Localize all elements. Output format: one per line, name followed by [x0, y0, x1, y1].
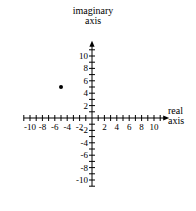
x-tick-label: 8 — [139, 123, 144, 132]
data-points-group — [59, 85, 63, 89]
y-tick-label: -10 — [70, 176, 88, 185]
x-tick-label: -10 — [24, 123, 36, 132]
x-tick-label: -6 — [51, 123, 59, 132]
complex-plane-figure: imaginary axis real axis -10-8-6-4-22468… — [0, 0, 196, 211]
x-tick-label: -8 — [39, 123, 47, 132]
y-tick-label: -2 — [70, 126, 88, 135]
x-tick-label: 6 — [127, 123, 132, 132]
plot-area — [0, 0, 196, 211]
axes-group — [24, 41, 169, 186]
x-tick-label: 4 — [115, 123, 120, 132]
y-tick-label: 4 — [70, 89, 88, 98]
x-tick-label: 2 — [102, 123, 107, 132]
y-tick-label: 10 — [70, 52, 88, 61]
imaginary-axis-arrow — [89, 41, 94, 47]
y-tick-label: 2 — [70, 101, 88, 110]
y-tick-label: -6 — [70, 151, 88, 160]
y-tick-label: -8 — [70, 163, 88, 172]
y-tick-label: 8 — [70, 64, 88, 73]
x-tick-label: 10 — [150, 123, 159, 132]
y-tick-label: 6 — [70, 76, 88, 85]
y-tick-label: -4 — [70, 138, 88, 147]
data-point — [59, 85, 63, 89]
real-axis-arrow — [163, 115, 169, 120]
